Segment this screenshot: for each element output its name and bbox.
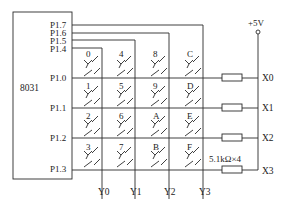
- port-p1-1: P1.1: [50, 103, 66, 113]
- port-p1-4: P1.4: [50, 44, 67, 54]
- row-output-x3: X3: [262, 166, 274, 176]
- key-switch-0: [84, 56, 100, 76]
- row-output-x0: X0: [262, 73, 274, 83]
- keypad-matrix-diagram: 8031 P1.7 P1.6 P1.5 P1.4 P1.0 P1.1 P1.2 …: [0, 0, 282, 211]
- column-output-y3: Y3: [199, 187, 211, 197]
- row-output-x2: X2: [262, 133, 274, 143]
- supply-label: +5V: [248, 18, 265, 28]
- column-output-y1: Y1: [130, 187, 142, 197]
- chip-label: 8031: [20, 83, 39, 93]
- key-label: 4: [119, 49, 124, 59]
- supply-terminal: [256, 30, 260, 34]
- row-wires: [72, 78, 222, 170]
- port-p1-0: P1.0: [50, 73, 67, 83]
- key-label: C: [187, 49, 193, 59]
- port-p1-3: P1.3: [50, 164, 67, 174]
- column-output-y2: Y2: [164, 187, 176, 197]
- key-label: E: [187, 111, 193, 121]
- key-label: 3: [86, 142, 91, 152]
- key-label: 9: [153, 81, 158, 91]
- key-label: 2: [86, 111, 91, 121]
- row-output-x1: X1: [262, 103, 274, 113]
- key-label: A: [153, 111, 160, 121]
- resistor-label: 5.1kΩ×4: [209, 154, 242, 164]
- key-switch-8: [151, 56, 167, 76]
- key-label: B: [153, 142, 159, 152]
- key-switch-c: [185, 56, 201, 76]
- key-switch-4: [117, 56, 133, 76]
- key-label: 5: [119, 81, 124, 91]
- key-label: F: [187, 142, 192, 152]
- key-label: 0: [86, 49, 91, 59]
- key-label: 6: [119, 111, 124, 121]
- column-output-y0: Y0: [98, 187, 110, 197]
- key-label: 7: [119, 142, 124, 152]
- port-p1-2: P1.2: [50, 133, 66, 143]
- column-wires: [72, 25, 203, 199]
- key-label: 1: [86, 81, 91, 91]
- key-label: D: [187, 81, 194, 91]
- key-label: 8: [153, 49, 158, 59]
